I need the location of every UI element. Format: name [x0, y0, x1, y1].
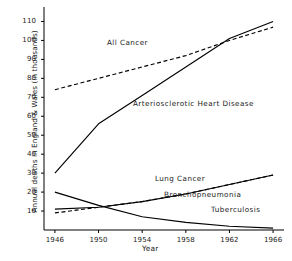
x-tick-label: 1946 — [38, 236, 72, 244]
x-axis-title: Year — [142, 244, 158, 253]
x-tick-label: 1954 — [125, 236, 159, 244]
series-line-arteriosclerotic-heart-disease — [55, 21, 273, 173]
chart-figure: 102030405060708090100110 194619501954195… — [0, 0, 292, 261]
series-label-bronchopneumonia: Bronchopneumonia — [164, 190, 241, 199]
x-tick-label: 1962 — [212, 236, 246, 244]
series-label-arteriosclerotic-heart-disease: Arteriosclerotic Heart Disease — [133, 99, 254, 108]
chart-tick-marks — [41, 21, 273, 233]
x-tick-label: 1966 — [256, 236, 290, 244]
x-tick-label: 1950 — [82, 236, 116, 244]
series-label-tuberculosis: Tuberculosis — [211, 205, 260, 214]
series-label-all-cancer: All Cancer — [107, 38, 148, 47]
x-tick-label: 1958 — [169, 236, 203, 244]
y-tick-label: 110 — [14, 17, 36, 25]
series-line-all-cancer — [55, 27, 273, 90]
y-axis-title: Annual deaths in England & Wales (in tho… — [30, 33, 39, 213]
series-label-lung-cancer: Lung Cancer — [155, 174, 205, 183]
